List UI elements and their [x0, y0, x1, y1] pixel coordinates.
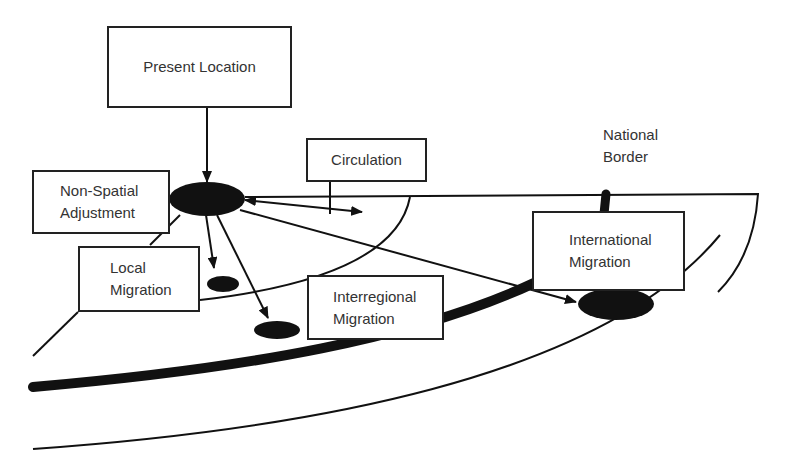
national-border-label-2: Border	[603, 146, 658, 168]
local-migration-box: Local Migration	[78, 246, 200, 312]
national-border-label-1: National	[603, 124, 658, 146]
present-location-node	[169, 182, 245, 216]
international-label-2: Migration	[569, 251, 683, 273]
left-boundary-lower	[33, 312, 78, 356]
interregional-node	[254, 321, 300, 339]
present-location-label: Present Location	[143, 56, 256, 78]
international-node	[578, 288, 654, 320]
international-migration-box: International Migration	[532, 211, 685, 291]
local-label-2: Migration	[110, 279, 198, 301]
non-spatial-label-2: Adjustment	[60, 202, 168, 224]
non-spatial-adjustment-box: Non-Spatial Adjustment	[32, 170, 170, 234]
international-label-1: International	[569, 229, 683, 251]
interregional-label-1: Interregional	[333, 286, 442, 308]
interregional-migration-box: Interregional Migration	[307, 275, 444, 340]
local-label-1: Local	[110, 257, 198, 279]
interregional-label-2: Migration	[333, 308, 442, 330]
circulation-box: Circulation	[306, 138, 427, 182]
circulation-label: Circulation	[331, 149, 402, 171]
present-location-box: Present Location	[107, 26, 292, 108]
local-node	[207, 276, 239, 292]
national-border-label: National Border	[603, 124, 658, 168]
non-spatial-label-1: Non-Spatial	[60, 180, 168, 202]
